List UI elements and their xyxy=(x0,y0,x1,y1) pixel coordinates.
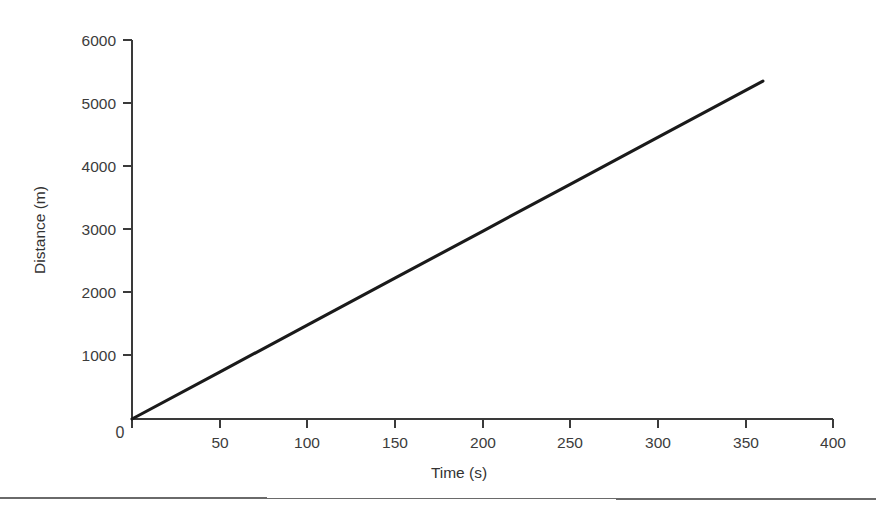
x-tick-label-200: 200 xyxy=(470,434,496,451)
y-tick-label-6000: 6000 xyxy=(82,32,117,49)
x-tick-marks xyxy=(132,419,833,428)
footer-divider xyxy=(0,498,876,499)
x-tick-label-250: 250 xyxy=(557,434,583,451)
x-tick-label-300: 300 xyxy=(645,434,671,451)
y-axis-title: Distance (m) xyxy=(31,186,48,274)
x-tick-label-400: 400 xyxy=(820,434,846,451)
chart-figure: 6000 5000 4000 3000 2000 1000 0 50 100 1… xyxy=(0,0,891,514)
y-tick-label-5000: 5000 xyxy=(82,95,117,112)
x-tick-label-100: 100 xyxy=(294,434,320,451)
x-tick-label-50: 50 xyxy=(211,434,229,451)
y-tick-label-1000: 1000 xyxy=(82,347,117,364)
x-tick-label-150: 150 xyxy=(382,434,408,451)
data-line-distance-vs-time xyxy=(132,81,763,419)
y-tick-label-3000: 3000 xyxy=(82,221,117,238)
x-tick-label-350: 350 xyxy=(733,434,759,451)
origin-tick-label: 0 xyxy=(116,424,125,441)
y-tick-marks xyxy=(123,40,132,355)
line-chart: 6000 5000 4000 3000 2000 1000 0 50 100 1… xyxy=(0,0,891,514)
y-tick-label-4000: 4000 xyxy=(82,158,117,175)
x-axis-title: Time (s) xyxy=(431,464,487,481)
y-tick-label-2000: 2000 xyxy=(82,284,117,301)
